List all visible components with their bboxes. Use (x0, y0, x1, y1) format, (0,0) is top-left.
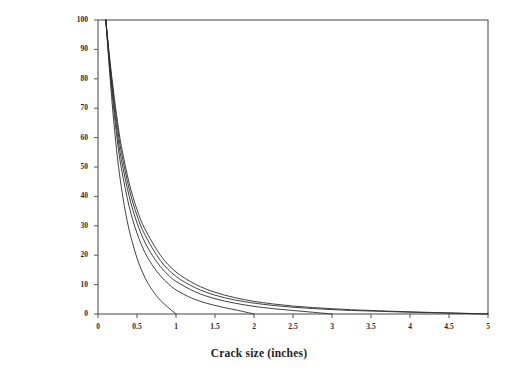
curve-curve-2 (106, 20, 254, 314)
plot-border (98, 20, 488, 314)
plot-frame (98, 20, 488, 314)
curve-curve-1 (106, 20, 176, 314)
curve-curve-3 (106, 20, 332, 314)
data-curves (106, 20, 488, 314)
plot-area (0, 0, 518, 376)
axis-ticks (94, 20, 488, 318)
figure-root: Remaining fatigue life (%) Crack size (i… (0, 0, 518, 376)
